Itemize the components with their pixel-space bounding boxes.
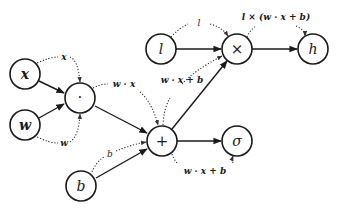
annotation-x: x — [60, 52, 67, 62]
node-plus: + — [147, 126, 177, 156]
edge-dot-to-plus — [95, 106, 147, 133]
dotted-lwxb-value — [247, 26, 305, 37]
annotation-l-times-wxb: l × (w · x + b) — [242, 12, 310, 22]
edge-plus-to-times — [172, 61, 227, 129]
node-b-label: b — [77, 178, 86, 194]
dotted-b-value — [92, 142, 146, 172]
dotted-x-value — [37, 57, 80, 82]
dotted-wx-value — [93, 84, 158, 125]
node-h: h — [298, 34, 328, 64]
node-x: x — [10, 59, 40, 89]
annotation-w: w — [60, 138, 68, 148]
dotted-wxb-up-value — [163, 56, 222, 125]
node-l-label: l — [159, 41, 163, 57]
edge-w-to-dot — [39, 104, 64, 118]
computational-graph: x w · b + l × h σ x w w · x b w · x + b … — [0, 0, 337, 212]
node-sigma-label: σ — [232, 133, 242, 149]
annotation-wxb-lower: w · x + b — [184, 166, 227, 176]
node-dot-product: · — [65, 83, 95, 113]
node-times-label: × — [231, 40, 244, 58]
node-plus-label: + — [156, 132, 169, 150]
node-w: w — [10, 110, 40, 140]
node-dot-label: · — [78, 88, 83, 106]
dotted-wxb-down-value — [172, 154, 233, 164]
node-sigma: σ — [222, 126, 252, 156]
node-l: l — [146, 34, 176, 64]
edge-b-to-plus — [96, 149, 147, 178]
annotation-wxb-upper: w · x + b — [161, 75, 204, 85]
node-h-label: h — [308, 41, 317, 57]
node-x-label: x — [20, 66, 30, 82]
node-b: b — [66, 171, 96, 201]
node-times: × — [222, 34, 252, 64]
node-w-label: w — [19, 117, 32, 133]
annotation-l: l — [198, 18, 201, 28]
annotation-w-dot-x: w · x — [113, 79, 136, 89]
dotted-w-value — [37, 114, 80, 143]
annotation-b: b — [107, 149, 113, 159]
edge-x-to-dot — [39, 81, 64, 93]
